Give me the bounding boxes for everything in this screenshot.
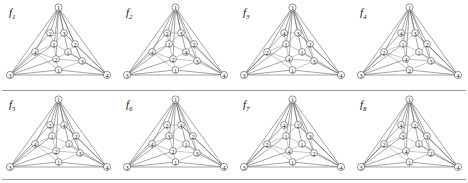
node-inner-c[interactable]: 3	[400, 132, 407, 139]
node-inner-d[interactable]: 2	[73, 132, 80, 139]
node-left-corner[interactable]: 3	[357, 71, 364, 78]
node-inner-c[interactable]: 1	[166, 41, 173, 48]
node-inner-b[interactable]: 3	[178, 30, 185, 37]
node-inner-g[interactable]: 4	[286, 147, 293, 154]
node-inner-c[interactable]: 1	[49, 132, 56, 139]
node-inner-d[interactable]: 3	[307, 132, 314, 139]
node-apex[interactable]: 1	[172, 95, 179, 102]
node-inner-h[interactable]: 3	[194, 149, 201, 156]
node-right-corner[interactable]: 4	[220, 163, 227, 170]
node-base-mid[interactable]: 1	[406, 158, 413, 165]
node-inner-b[interactable]: 4	[61, 121, 68, 128]
node-inner-a[interactable]: 4	[398, 121, 405, 128]
node-left-corner[interactable]: 3	[6, 163, 13, 170]
node-apex[interactable]: 1	[289, 95, 296, 102]
node-label: 4	[33, 49, 36, 56]
node-right-corner[interactable]: 4	[220, 71, 227, 78]
node-apex[interactable]: 1	[172, 4, 179, 11]
node-inner-a[interactable]: 2	[47, 30, 54, 37]
node-inner-a[interactable]: 4	[281, 121, 288, 128]
node-inner-g[interactable]: 2	[170, 56, 177, 63]
node-inner-a[interactable]: 2	[47, 121, 54, 128]
node-inner-g[interactable]: 2	[53, 56, 60, 63]
node-inner-d[interactable]: 2	[72, 41, 79, 48]
node-inner-e[interactable]: 2	[381, 140, 388, 147]
node-inner-b[interactable]: 3	[412, 30, 419, 37]
node-inner-g[interactable]: 4	[403, 147, 410, 154]
node-inner-g[interactable]: 2	[53, 147, 60, 154]
node-inner-d[interactable]: 2	[307, 41, 314, 48]
node-inner-c[interactable]: 1	[51, 41, 58, 48]
node-right-corner[interactable]: 4	[103, 163, 110, 170]
node-inner-e[interactable]: 4	[149, 49, 156, 56]
node-right-corner[interactable]: 4	[337, 71, 344, 78]
node-right-corner[interactable]: 4	[103, 71, 110, 78]
node-inner-e[interactable]: 4	[149, 140, 156, 147]
node-left-corner[interactable]: 3	[240, 71, 247, 78]
edge-left-corner-to-inner-a	[10, 33, 50, 75]
node-right-corner[interactable]: 4	[454, 163, 461, 170]
node-inner-e[interactable]: 4	[32, 140, 39, 147]
node-right-corner[interactable]: 4	[337, 163, 344, 170]
node-apex[interactable]: 1	[406, 95, 413, 102]
node-base-mid[interactable]: 1	[289, 67, 296, 74]
node-inner-f[interactable]: 1	[299, 49, 306, 56]
node-base-mid[interactable]: 1	[55, 158, 62, 165]
node-left-corner[interactable]: 3	[240, 163, 247, 170]
node-inner-f[interactable]: 1	[65, 49, 72, 56]
node-inner-c[interactable]: 1	[283, 132, 290, 139]
node-inner-e[interactable]: 2	[264, 140, 271, 147]
node-base-mid[interactable]: 1	[289, 158, 296, 165]
node-inner-e[interactable]: 2	[264, 49, 271, 56]
node-inner-c[interactable]: 3	[166, 132, 173, 139]
node-apex[interactable]: 1	[289, 4, 296, 11]
node-apex[interactable]: 1	[55, 95, 62, 102]
node-base-mid[interactable]: 2	[406, 67, 413, 74]
node-apex[interactable]: 1	[406, 4, 413, 11]
node-right-corner[interactable]: 4	[454, 71, 461, 78]
node-inner-f[interactable]: 1	[416, 49, 423, 56]
node-inner-c[interactable]: 1	[400, 41, 407, 48]
node-inner-b[interactable]: 2	[295, 121, 302, 128]
node-inner-e[interactable]: 2	[381, 49, 388, 56]
node-apex[interactable]: 1	[55, 4, 62, 11]
node-base-mid[interactable]: 1	[55, 67, 62, 74]
node-inner-d[interactable]: 2	[424, 41, 431, 48]
node-inner-g[interactable]: 4	[286, 56, 293, 63]
node-inner-b[interactable]: 3	[295, 30, 302, 37]
node-inner-h[interactable]: 2	[311, 149, 318, 156]
node-inner-f[interactable]: 1	[299, 140, 306, 147]
node-inner-h[interactable]: 3	[194, 58, 201, 65]
node-inner-b[interactable]: 4	[178, 121, 185, 128]
node-inner-d[interactable]: 2	[191, 41, 198, 48]
node-inner-g[interactable]: 4	[403, 56, 410, 63]
node-inner-f[interactable]: 1	[183, 140, 190, 147]
node-inner-d[interactable]: 2	[190, 132, 197, 139]
node-inner-h[interactable]: 3	[311, 58, 318, 65]
node-inner-h[interactable]: 2	[428, 149, 435, 156]
node-base-mid[interactable]: 1	[172, 158, 179, 165]
node-left-corner[interactable]: 3	[123, 71, 130, 78]
node-inner-e[interactable]: 4	[32, 49, 39, 56]
node-left-corner[interactable]: 3	[357, 163, 364, 170]
node-inner-f[interactable]: 1	[416, 140, 423, 147]
node-inner-a[interactable]: 2	[164, 121, 171, 128]
node-base-mid[interactable]: 1	[172, 67, 179, 74]
node-inner-a[interactable]: 4	[398, 30, 405, 37]
node-left-corner[interactable]: 3	[123, 163, 130, 170]
node-inner-g[interactable]: 2	[170, 147, 177, 154]
node-inner-c[interactable]: 1	[283, 41, 290, 48]
node-inner-h[interactable]: 3	[79, 58, 86, 65]
node-inner-h[interactable]: 3	[428, 58, 435, 65]
node-inner-d[interactable]: 3	[424, 132, 431, 139]
node-inner-a[interactable]: 2	[164, 30, 171, 37]
node-label: 3	[429, 58, 432, 65]
edge-layer	[244, 8, 341, 76]
node-inner-f[interactable]: 4	[183, 49, 190, 56]
node-inner-b[interactable]: 3	[61, 30, 68, 37]
node-inner-a[interactable]: 4	[281, 30, 288, 37]
node-inner-h[interactable]: 3	[77, 149, 84, 156]
node-inner-f[interactable]: 1	[66, 140, 73, 147]
node-left-corner[interactable]: 3	[6, 71, 13, 78]
node-inner-b[interactable]: 2	[412, 121, 419, 128]
